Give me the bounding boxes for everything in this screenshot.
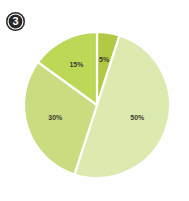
figure-root: 3 5%50%30%15% (0, 0, 189, 201)
pie-slice-label: 50% (130, 114, 145, 121)
pie-slices-group (24, 32, 170, 178)
pie-chart: 5%50%30%15% (0, 0, 189, 201)
pie-slice-label: 5% (99, 56, 110, 63)
pie-slice-label: 30% (48, 114, 63, 121)
pie-slice-label: 15% (69, 61, 84, 68)
